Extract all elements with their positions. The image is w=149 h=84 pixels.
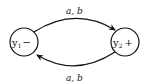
- state-y2-subscript: 2: [119, 42, 123, 49]
- state-y2: y2+: [111, 28, 139, 56]
- edge-y2-to-y1-label: a, b: [66, 73, 83, 83]
- edge-y2-to-y1-arrow: [37, 52, 115, 66]
- state-diagram: y1− y2+ a, b a, b: [0, 0, 149, 84]
- state-y1-subscript: 1: [18, 42, 22, 49]
- edge-y1-to-y2-label: a, b: [66, 6, 83, 16]
- edge-y1-to-y2-arrow: [34, 18, 115, 32]
- state-y1: y1−: [10, 28, 38, 56]
- state-y1-sign: −: [22, 37, 30, 48]
- state-y2-sign: +: [124, 37, 132, 48]
